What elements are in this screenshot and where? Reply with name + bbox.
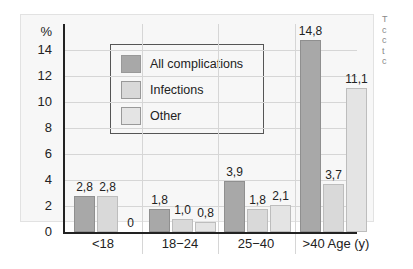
y-tick-label: 6 <box>32 146 52 161</box>
chart-legend: All complications Infections Other <box>110 44 264 134</box>
caption-line: t <box>382 46 388 57</box>
bar-infections <box>323 184 344 232</box>
legend-swatch <box>121 107 141 125</box>
y-tick-label: 4 <box>32 172 52 187</box>
bar-value-label: 0 <box>114 216 148 230</box>
bar-value-label: 2,1 <box>264 189 298 203</box>
legend-item-infections: Infections <box>121 81 204 99</box>
bar-other <box>346 88 367 232</box>
bar-other <box>195 222 216 232</box>
legend-item-all-complications: All complications <box>121 55 243 73</box>
bar-infections <box>172 219 193 232</box>
bar-value-label: 11,1 <box>340 72 374 86</box>
caption-line: c <box>382 35 388 46</box>
y-tick-label: 2 <box>32 198 52 213</box>
caption-line: T <box>382 14 388 25</box>
bar-all-complications <box>300 40 321 232</box>
y-tick-label: 12 <box>32 68 52 83</box>
bar-value-label: 14,8 <box>294 24 328 38</box>
bar-infections <box>247 209 268 232</box>
legend-swatch <box>121 55 141 73</box>
bar-all-complications <box>224 181 245 232</box>
bar-value-label: 3,9 <box>218 165 252 179</box>
legend-swatch <box>121 81 141 99</box>
bar-value-label: 2,8 <box>91 180 125 194</box>
bar-all-complications <box>74 196 95 232</box>
side-caption-fragment: T c c t c <box>382 14 388 67</box>
caption-line: c <box>382 56 388 67</box>
y-tick-label: 0 <box>32 224 52 239</box>
legend-label: Other <box>150 109 181 123</box>
bar-other <box>270 205 291 232</box>
x-axis <box>63 232 357 234</box>
y-tick-label: 14 <box>32 42 52 57</box>
y-tick-label: 10 <box>32 94 52 109</box>
y-unit-label: % <box>32 24 52 39</box>
caption-line: c <box>382 25 388 36</box>
x-category-label: >40 Age (y) <box>291 236 381 251</box>
legend-item-other: Other <box>121 107 181 125</box>
y-axis <box>63 24 65 233</box>
group-separator <box>295 24 296 254</box>
legend-label: All complications <box>150 57 243 71</box>
legend-label: Infections <box>150 83 204 97</box>
bar-value-label: 0,8 <box>189 206 223 220</box>
y-tick-label: 8 <box>32 120 52 135</box>
x-category-label: 25−40 <box>211 236 301 251</box>
